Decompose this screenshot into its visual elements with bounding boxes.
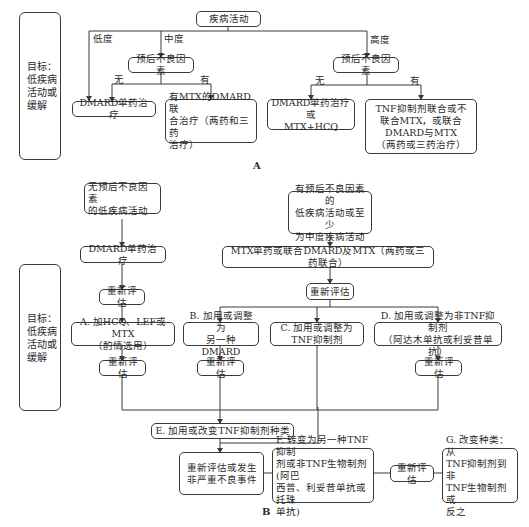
prognosis-box-high: 预后不良因素 [333,57,399,73]
yes-label-high: 有 [410,75,420,86]
goal-box-a: 目标： 低疾病 活动或 缓解 [19,12,61,160]
prognosis-box-moderate: 预后不良因素 [128,57,194,73]
reassess-box-d: 重新评估 [415,360,462,376]
reassess-box-left: 重新评估 [99,289,145,305]
reassess-box-f: 重新评估 [390,465,434,482]
branch-low-label: 低度 [93,33,113,44]
option-b-box: B. 加用或调整为 另一种DMARD [183,322,259,346]
reassess-box-b: 重新评估 [197,360,244,376]
option-g-box: G. 改变种类：从 TNF抑制剂到非 TNF生物制剂或 反之 [442,448,518,503]
low-result-box: DMARD单药治疗 [72,101,156,117]
goal-box-b: 目标： 低疾病 活动或 缓解 [19,264,61,411]
mtx-combo-box: MTX单药或联合DMARD及MTX（两药或三药联合） [222,246,434,268]
start-no-risk-box: 无预后不良因素 的低疾病活动 [84,183,161,214]
treatment-flowchart: 目标： 低疾病 活动或 缓解 疾病活动 低度 中度 高度 预后不良因素 预后不良… [0,0,529,527]
option-e-box: E. 加用或改变TNF抑制剂种类 [151,423,294,439]
no-label-high: 无 [315,75,325,86]
branch-high-label: 高度 [370,34,390,45]
high-yes-result-box: TNF抑制剂联合或不 联合MTX，或联合 DMARD与MTX （两药或三药治疗） [365,99,477,154]
disease-activity-box: 疾病活动 [196,11,261,27]
reassess-box-right: 重新评估 [306,283,354,300]
yes-label-mid: 有 [200,74,210,85]
option-c-box: C. 加用或调整为 TNF抑制剂 [270,322,364,346]
branch-moderate-label: 中度 [164,33,184,44]
reassess-adverse-box: 重新评估或发生 非严重不良事件 [179,452,264,495]
option-a-box: A. 加HCQ、LEF或MTX （酌情选用） [71,322,175,346]
reassess-box-a: 重新评估 [99,360,146,376]
dmard-mono-box: DMARD单药治疗 [80,246,166,263]
start-risk-box: 有预后不良因素的 低疾病活动或至少 为中度疾病活动 [288,191,372,234]
high-no-result-box: DMARD单药治疗或 MTX+HCQ [267,99,355,130]
option-d-box: D. 加用或调整为非TNF抑制剂 （阿达木单抗或利妥昔单抗） [374,322,502,346]
option-f-box: F. 转变为另一种TNF抑制 剂或非TNF生物制剂(阿巴 西普、利妥昔单抗或托珠… [272,448,374,503]
panel-a-label: A [253,160,261,171]
panel-b-label: B [262,506,270,517]
mid-yes-result-box: 有MTX的DMARD联 合治疗（两药和三药 治疗） [165,99,257,143]
no-label-mid: 无 [114,74,124,85]
